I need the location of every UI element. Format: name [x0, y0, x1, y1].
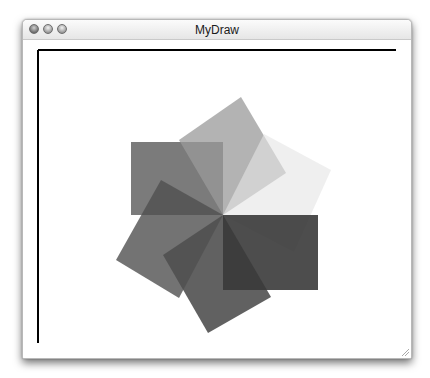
pinwheel-shapes: [116, 97, 331, 333]
drawing-surface[interactable]: [23, 40, 411, 358]
window-title: MyDraw: [23, 23, 411, 37]
mydraw-window: MyDraw: [22, 19, 412, 359]
title-bar[interactable]: MyDraw: [23, 20, 411, 40]
drawing-canvas[interactable]: [23, 40, 411, 358]
resize-grip-icon[interactable]: [400, 347, 410, 357]
